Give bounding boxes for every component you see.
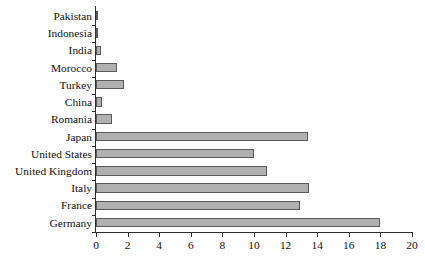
x-axis-tick-label: 16 — [334, 239, 364, 252]
x-axis-tick-mark — [412, 233, 413, 237]
bar — [96, 97, 102, 106]
y-axis-tick-label: Japan — [0, 132, 92, 143]
bar — [96, 149, 254, 158]
bar — [96, 132, 308, 141]
y-axis-tick-mark — [92, 129, 95, 130]
bar-chart: PakistanIndonesiaIndiaMoroccoTurkeyChina… — [0, 0, 425, 264]
y-axis-tick-label: United Kingdom — [0, 166, 92, 177]
x-axis-tick-label: 4 — [144, 239, 174, 252]
x-axis-tick-mark — [96, 233, 97, 237]
bar — [96, 166, 267, 175]
y-axis-tick-label: Turkey — [0, 80, 92, 91]
bar — [96, 63, 117, 72]
y-axis-tick-label: Pakistan — [0, 11, 92, 22]
x-axis-tick-label: 12 — [271, 239, 301, 252]
x-axis-tick-mark — [222, 233, 223, 237]
y-axis-tick-mark — [92, 232, 95, 233]
x-axis-tick-label: 6 — [176, 239, 206, 252]
y-axis-tick-mark — [92, 60, 95, 61]
bar — [96, 201, 300, 210]
bar — [96, 28, 98, 37]
x-axis-tick-mark — [159, 233, 160, 237]
x-axis-tick-label: 20 — [397, 239, 425, 252]
x-axis-tick-label: 18 — [365, 239, 395, 252]
y-axis-tick-mark — [92, 198, 95, 199]
x-axis-tick-label: 10 — [239, 239, 269, 252]
bar-row — [96, 77, 412, 94]
x-axis-tick-mark — [128, 233, 129, 237]
x-axis-tick-mark — [317, 233, 318, 237]
y-axis-tick-label: France — [0, 200, 92, 211]
y-axis-tick-mark — [92, 77, 95, 78]
x-axis-tick-mark — [380, 233, 381, 237]
x-axis-tick-mark — [349, 233, 350, 237]
bar-row — [96, 111, 412, 128]
y-axis-tick-label: China — [0, 97, 92, 108]
y-axis-tick-mark — [92, 146, 95, 147]
y-axis-tick-mark — [92, 94, 95, 95]
bar — [96, 218, 380, 227]
x-axis-tick-label: 14 — [302, 239, 332, 252]
x-axis-tick-mark — [191, 233, 192, 237]
x-axis-tick-mark — [254, 233, 255, 237]
bar-row — [96, 25, 412, 42]
bar-row — [96, 8, 412, 25]
bar — [96, 11, 98, 20]
bar-row — [96, 198, 412, 215]
bar-row — [96, 163, 412, 180]
bar — [96, 183, 309, 192]
bar-row — [96, 42, 412, 59]
bar — [96, 114, 112, 123]
y-axis-tick-label: Germany — [0, 218, 92, 229]
y-axis-category-labels: PakistanIndonesiaIndiaMoroccoTurkeyChina… — [0, 8, 92, 232]
y-axis-tick-mark — [92, 42, 95, 43]
x-axis-tick-mark — [286, 233, 287, 237]
y-axis-tick-mark — [92, 163, 95, 164]
y-axis-tick-label: Morocco — [0, 63, 92, 74]
plot-area — [96, 8, 412, 232]
y-axis-tick-mark — [92, 215, 95, 216]
y-axis-tick-label: Romania — [0, 114, 92, 125]
bar-row — [96, 146, 412, 163]
y-axis-tick-mark — [92, 180, 95, 181]
bar-row — [96, 215, 412, 232]
y-axis-tick-mark — [92, 25, 95, 26]
x-axis-tick-label: 0 — [81, 239, 111, 252]
bar-row — [96, 60, 412, 77]
bar-row — [96, 94, 412, 111]
y-axis-tick-label: Indonesia — [0, 28, 92, 39]
bar-row — [96, 129, 412, 146]
x-axis-tick-label: 8 — [207, 239, 237, 252]
bar — [96, 46, 101, 55]
y-axis-tick-mark — [92, 111, 95, 112]
y-axis-tick-label: United States — [0, 149, 92, 160]
bar-row — [96, 180, 412, 197]
x-axis-tick-label: 2 — [113, 239, 143, 252]
y-axis-tick-label: India — [0, 45, 92, 56]
y-axis-tick-label: Italy — [0, 183, 92, 194]
bar — [96, 80, 124, 89]
